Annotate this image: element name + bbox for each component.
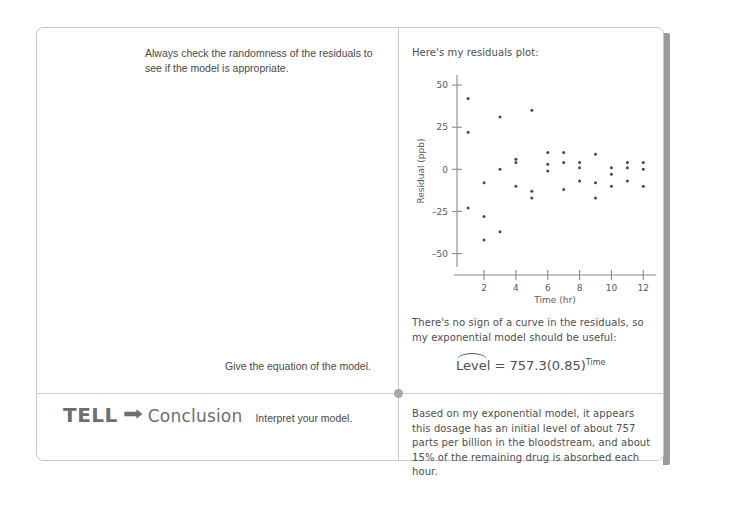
data-point (562, 188, 565, 191)
data-point (642, 161, 645, 164)
data-point (578, 180, 581, 183)
right-arrow-icon: ➡ (123, 404, 143, 423)
data-point (578, 161, 581, 164)
equation-base: 0.85 (552, 358, 581, 373)
conclusion-instruction: Interpret your model. (255, 412, 352, 424)
equation-level-text: Level (456, 358, 490, 373)
data-point (594, 181, 597, 184)
residuals-plot-svg: 50250–25–50 24681012 Residual (ppb) Time… (412, 67, 658, 307)
data-point (546, 170, 549, 173)
data-point (642, 185, 645, 188)
data-point (467, 97, 470, 100)
data-point (467, 207, 470, 210)
data-point (546, 163, 549, 166)
data-point (514, 161, 517, 164)
data-point (562, 151, 565, 154)
y-tick-label: 25 (437, 122, 448, 132)
data-point (514, 158, 517, 161)
x-tick-label: 8 (577, 283, 583, 293)
data-point (626, 161, 629, 164)
equation-equals: = (494, 358, 505, 373)
data-point (483, 239, 486, 242)
data-point (483, 215, 486, 218)
data-point (498, 116, 501, 119)
student-note-conclusion: Based on my exponential model, it appear… (412, 407, 656, 480)
data-point (530, 190, 533, 193)
x-axis-title: Time (hr) (533, 295, 575, 305)
tell-conclusion-bar: TELL ➡ Conclusion Interpret your model. (63, 403, 352, 427)
student-note-no-curve: There's no sign of a curve in the residu… (412, 316, 656, 345)
conclusion-heading: Conclusion (148, 406, 243, 426)
divider-junction-dot (394, 389, 403, 398)
data-point (498, 168, 501, 171)
x-tick-label: 2 (481, 283, 487, 293)
data-point (546, 151, 549, 154)
equation-coefficient: 757.3 (510, 358, 547, 373)
data-point (610, 166, 613, 169)
data-point (626, 166, 629, 169)
x-tick-label: 6 (545, 283, 551, 293)
textbook-page-card: Always check the randomness of the resid… (36, 27, 664, 461)
data-point (562, 161, 565, 164)
x-tick-label: 12 (638, 283, 649, 293)
data-point (610, 173, 613, 176)
data-point (578, 166, 581, 169)
equation-exponent: Time (586, 358, 606, 367)
data-point (483, 181, 486, 184)
hat-accent-icon (457, 353, 487, 360)
page-spine-shadow (663, 33, 670, 465)
data-point (530, 109, 533, 112)
section-divider (37, 393, 663, 394)
y-axis-title: Residual (ppb) (416, 138, 426, 203)
prompt-check-residuals: Always check the randomness of the resid… (145, 46, 391, 76)
data-point (467, 131, 470, 134)
y-tick-label: 50 (437, 80, 449, 90)
data-point (610, 185, 613, 188)
data-point (642, 168, 645, 171)
student-note-intro: Here's my residuals plot: (412, 46, 652, 60)
tell-step-label: TELL (63, 403, 118, 427)
residuals-scatterplot: 50250–25–50 24681012 Residual (ppb) Time… (412, 67, 658, 307)
equation-response-variable: Level (456, 358, 490, 373)
data-point (498, 230, 501, 233)
data-point (594, 153, 597, 156)
data-point (530, 196, 533, 199)
model-equation: Level = 757.3(0.85)Time (456, 358, 605, 373)
data-point (514, 185, 517, 188)
data-point (626, 180, 629, 183)
x-tick-label: 4 (513, 283, 519, 293)
x-tick-label: 10 (606, 283, 618, 293)
y-tick-label: 0 (442, 165, 448, 175)
data-points-group (467, 97, 645, 241)
y-tick-label: –25 (432, 207, 448, 217)
x-axis-ticks: 24681012 (481, 270, 649, 293)
data-point (594, 196, 597, 199)
prompt-give-equation: Give the equation of the model. (225, 359, 395, 374)
y-tick-label: –50 (432, 249, 448, 259)
